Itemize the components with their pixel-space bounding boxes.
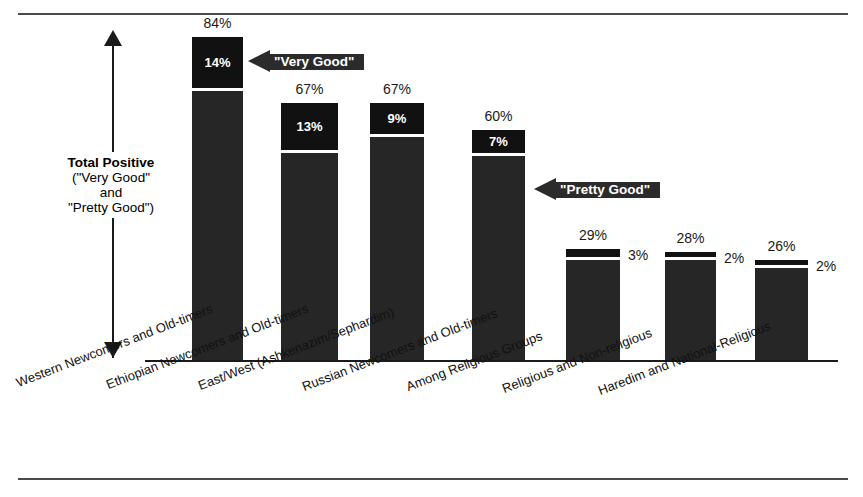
bar-total-label: 60% — [484, 108, 512, 124]
bar-total-label: 26% — [767, 238, 795, 254]
arrow-up-icon — [104, 30, 122, 46]
bar-segment-very-good: 13% — [281, 103, 338, 153]
chart-page: Total Positive ("Very Good" and "Pretty … — [0, 0, 863, 497]
bar-segment-very-good — [566, 249, 620, 261]
chart-plot-area: Total Positive ("Very Good" and "Pretty … — [0, 0, 863, 497]
caption-line-2: ("Very Good" — [0, 170, 222, 185]
bar-total-label: 28% — [676, 230, 704, 246]
callout-very-good: "Very Good" — [248, 50, 364, 73]
bar-total-label: 29% — [579, 227, 607, 243]
bar-total-label: 84% — [203, 15, 231, 31]
callout-very-good-label: "Very Good" — [270, 54, 364, 70]
bar-side-label: 2% — [816, 258, 836, 274]
bar-side-label: 2% — [724, 250, 744, 266]
bar-7: 26% — [755, 260, 808, 360]
caption-line-1: Total Positive — [0, 155, 222, 170]
bar-side-label: 3% — [628, 247, 648, 263]
arrow-left-icon — [248, 50, 270, 72]
arrow-left-icon — [534, 178, 556, 200]
callout-pretty-good: "Pretty Good" — [534, 178, 660, 201]
callout-pretty-good-label: "Pretty Good" — [556, 182, 660, 198]
bar-segment-very-good: 9% — [370, 103, 424, 138]
bar-total-label: 67% — [383, 81, 411, 97]
bar-segment-very-good — [755, 260, 808, 268]
bar-segment-very-good: 14% — [192, 37, 243, 91]
total-positive-caption: Total Positive ("Very Good" and "Pretty … — [0, 152, 222, 218]
bar-segment-very-good: 7% — [472, 130, 525, 157]
bar-total-label: 67% — [295, 81, 323, 97]
bar-segment-very-good — [665, 252, 716, 260]
caption-line-4: "Pretty Good") — [0, 200, 222, 215]
caption-line-3: and — [0, 185, 222, 200]
